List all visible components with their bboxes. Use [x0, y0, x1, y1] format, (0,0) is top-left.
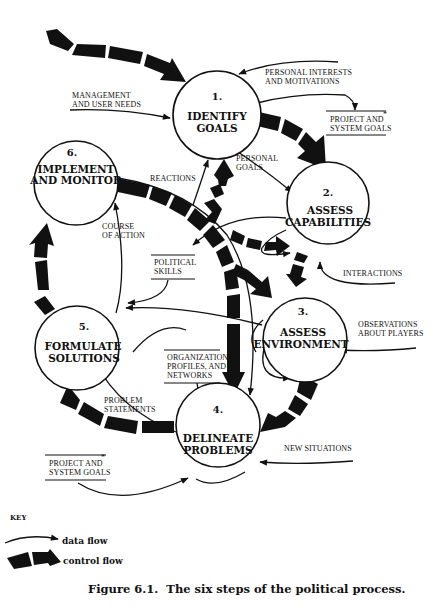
data-flow-political-skills-to-5: [128, 280, 168, 303]
svg-text:6.: 6.: [67, 147, 77, 158]
svg-text:FORMULATE: FORMULATE: [45, 340, 122, 352]
svg-text:ENVIRONMENT: ENVIRONMENT: [253, 338, 348, 350]
svg-text:DELINEATE: DELINEATE: [183, 432, 253, 444]
svg-text:ASSESS: ASSESS: [279, 326, 326, 338]
svg-text:PROBLEMS: PROBLEMS: [183, 444, 252, 456]
control-flow-3-to-4: [260, 375, 318, 432]
svg-text:2.: 2.: [323, 187, 333, 198]
svg-text:POLITICAL: POLITICAL: [154, 258, 196, 267]
svg-text:INTERACTIONS: INTERACTIONS: [343, 269, 402, 278]
control-flow-branch-to-3: [232, 264, 272, 298]
label-personal-interests: PERSONAL INTERESTS AND MOTIVATIONS: [265, 68, 352, 86]
svg-text:PROJECT AND: PROJECT AND: [330, 115, 384, 124]
svg-text:COURSE: COURSE: [102, 222, 134, 231]
svg-text:AND MONITOR: AND MONITOR: [29, 174, 122, 186]
svg-text:ORGANIZATION,: ORGANIZATION,: [167, 353, 230, 362]
svg-text:*: *: [383, 110, 387, 119]
legend: KEY data flow control flow: [5, 513, 123, 569]
label-organization-profiles: ORGANIZATION, PROFILES, AND NETWORKS: [164, 350, 230, 383]
label-political-skills: POLITICAL SKILLS: [151, 255, 196, 279]
svg-text:AND MOTIVATIONS: AND MOTIVATIONS: [265, 77, 339, 86]
svg-text:MANAGEMENT: MANAGEMENT: [72, 91, 131, 100]
node-assess-capabilities: 2. ASSESS CAPABILITIES: [285, 162, 371, 244]
node-delineate-problems: 4. DELINEATE PROBLEMS: [176, 383, 260, 467]
svg-text:REACTIONS: REACTIONS: [150, 174, 196, 183]
label-reactions: REACTIONS: [150, 174, 196, 183]
svg-text:GOALS: GOALS: [196, 122, 237, 134]
label-interactions: INTERACTIONS: [343, 269, 402, 278]
svg-text:KEY: KEY: [10, 513, 27, 522]
svg-text:PROBLEM: PROBLEM: [104, 396, 143, 405]
label-project-goals-bottom: PROJECT AND * SYSTEM GOALS: [45, 453, 110, 480]
control-flow-entry-arrow: [46, 29, 186, 82]
node-assess-environment: 3. ASSESS ENVIRONMENT: [253, 298, 348, 382]
data-flow-3-to-5: [126, 308, 262, 325]
svg-text:AND USER NEEDS: AND USER NEEDS: [72, 100, 141, 109]
svg-text:3.: 3.: [298, 306, 308, 317]
svg-text:GOALS: GOALS: [236, 163, 263, 172]
label-problem-statements: PROBLEM STATEMENTS: [104, 396, 155, 414]
svg-text:STATEMENTS: STATEMENTS: [104, 405, 155, 414]
svg-text:ABOUT PLAYERS: ABOUT PLAYERS: [358, 329, 424, 338]
data-flow-observations: [340, 348, 416, 351]
svg-text:PROJECT AND: PROJECT AND: [49, 459, 103, 468]
svg-text:ASSESS: ASSESS: [306, 204, 353, 216]
svg-text:SOLUTIONS: SOLUTIONS: [48, 352, 120, 364]
svg-text:control flow: control flow: [63, 556, 123, 566]
label-new-situations: NEW SITUATIONS: [284, 444, 352, 453]
label-course-of-action: COURSE OF ACTION: [102, 222, 145, 240]
legend-control-flow: control flow: [7, 549, 123, 569]
data-flow-4-bottom: [196, 472, 245, 483]
data-flow-project-goals-bottom: [78, 478, 188, 495]
data-flow-new-situations: [260, 461, 353, 463]
data-flow-5-organization: [133, 328, 186, 352]
svg-text:OF ACTION: OF ACTION: [102, 231, 145, 240]
svg-text:data flow: data flow: [62, 536, 108, 546]
label-observations: OBSERVATIONS ABOUT PLAYERS: [358, 320, 424, 338]
data-flow-management-needs: [70, 110, 170, 118]
svg-text:CAPABILITIES: CAPABILITIES: [285, 216, 371, 228]
svg-text:*: *: [101, 453, 105, 462]
label-management-needs: MANAGEMENT AND USER NEEDS: [72, 91, 141, 109]
control-flow-branch-to-2: [230, 230, 290, 256]
svg-text:SYSTEM GOALS: SYSTEM GOALS: [49, 468, 110, 477]
control-flow-5-to-6: [29, 223, 55, 315]
data-flow-course-of-action: [115, 203, 122, 313]
figure-caption: Figure 6.1. The six steps of the politic…: [88, 582, 406, 596]
svg-text:5.: 5.: [79, 321, 89, 332]
legend-data-flow: data flow: [5, 536, 108, 546]
data-flow-project-goals-top: [257, 94, 355, 110]
svg-text:PERSONAL: PERSONAL: [236, 154, 278, 163]
control-flow-2-to-3: [286, 252, 308, 287]
svg-text:1.: 1.: [212, 91, 222, 102]
svg-text:NEW SITUATIONS: NEW SITUATIONS: [284, 444, 352, 453]
label-personal-goals: PERSONAL GOALS: [236, 154, 278, 172]
node-formulate-solutions: 5. FORMULATE SOLUTIONS: [35, 306, 121, 390]
svg-text:NETWORKS: NETWORKS: [167, 371, 212, 380]
svg-text:PERSONAL INTERESTS: PERSONAL INTERESTS: [265, 68, 352, 77]
svg-text:SYSTEM GOALS: SYSTEM GOALS: [330, 124, 391, 133]
control-flow-branch-to-1: [204, 159, 234, 224]
svg-text:4.: 4.: [213, 404, 223, 415]
node-identify-goals: 1. IDENTIFY GOALS: [173, 71, 261, 159]
node-implement-and-monitor: 6. IMPLEMENT AND MONITOR: [29, 141, 122, 225]
svg-text:IDENTIFY: IDENTIFY: [187, 110, 247, 122]
svg-text:OBSERVATIONS: OBSERVATIONS: [358, 320, 418, 329]
label-project-goals-top: PROJECT AND * SYSTEM GOALS: [326, 110, 391, 135]
political-process-diagram: 1. IDENTIFY GOALS 2. ASSESS CAPABILITIES…: [0, 0, 439, 610]
svg-text:SKILLS: SKILLS: [154, 267, 182, 276]
svg-text:PROFILES, AND: PROFILES, AND: [167, 362, 226, 371]
